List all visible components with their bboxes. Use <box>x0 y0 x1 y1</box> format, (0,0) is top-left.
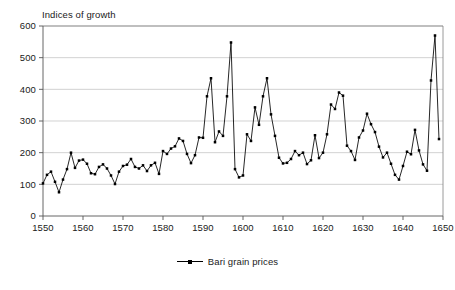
data-point <box>122 165 125 168</box>
data-point <box>430 79 433 82</box>
data-point <box>302 151 305 154</box>
x-tick-label-1600: 1600 <box>232 222 254 233</box>
data-point <box>322 151 325 154</box>
y-tick-label-0: 0 <box>31 210 36 221</box>
x-axis-ticks <box>43 216 443 220</box>
data-point <box>42 182 45 185</box>
data-point <box>414 129 417 132</box>
legend-marker-icon <box>188 260 192 264</box>
data-point <box>374 131 377 134</box>
data-point <box>342 94 345 97</box>
y-tick-label-200: 200 <box>20 147 36 158</box>
data-point <box>158 173 161 176</box>
data-point <box>338 91 341 94</box>
data-point <box>202 137 205 140</box>
data-point <box>190 162 193 165</box>
data-point <box>290 158 293 161</box>
y-axis-labels: 0100200300400500600 <box>20 20 36 221</box>
x-tick-label-1620: 1620 <box>312 222 334 233</box>
data-point <box>170 147 173 150</box>
data-point <box>230 41 233 44</box>
data-point <box>106 167 109 170</box>
data-point <box>282 162 285 165</box>
chart-plot-svg: 0100200300400500600 15501560157015801590… <box>0 0 455 290</box>
data-point <box>394 174 397 177</box>
x-tick-label-1580: 1580 <box>152 222 174 233</box>
data-point <box>410 153 413 156</box>
chart-legend: Bari grain prices <box>0 256 455 267</box>
data-point <box>226 95 229 98</box>
data-point <box>314 134 317 137</box>
data-point <box>402 165 405 168</box>
data-point <box>210 77 213 80</box>
data-point <box>162 150 165 153</box>
y-tick-label-500: 500 <box>20 52 36 63</box>
data-point <box>298 154 301 157</box>
data-point <box>354 159 357 162</box>
data-point <box>86 163 89 166</box>
data-point <box>54 181 57 184</box>
data-point <box>350 150 353 153</box>
data-point <box>154 162 157 165</box>
data-point <box>426 169 429 172</box>
data-point <box>102 163 105 166</box>
data-point <box>306 163 309 166</box>
data-point <box>406 150 409 153</box>
data-point <box>178 137 181 140</box>
data-point <box>294 150 297 153</box>
data-point <box>278 156 281 159</box>
x-tick-label-1610: 1610 <box>272 222 294 233</box>
data-point <box>242 174 245 177</box>
data-point <box>378 145 381 148</box>
data-point <box>218 130 221 133</box>
data-point <box>238 176 241 179</box>
chart-container: Indices of growth 0100200300400500600 15… <box>0 0 455 290</box>
y-tick-label-400: 400 <box>20 84 36 95</box>
data-point <box>246 133 249 136</box>
data-point <box>386 151 389 154</box>
x-tick-label-1630: 1630 <box>352 222 374 233</box>
data-point <box>146 170 149 173</box>
data-point <box>434 34 437 37</box>
data-point <box>142 164 145 167</box>
data-point <box>78 159 81 162</box>
data-point <box>214 141 217 144</box>
gridlines-group <box>43 26 443 184</box>
data-point <box>318 157 321 160</box>
x-tick-label-1570: 1570 <box>112 222 134 233</box>
data-point <box>330 103 333 106</box>
data-point <box>222 135 225 138</box>
x-tick-label-1550: 1550 <box>32 222 54 233</box>
data-point <box>114 183 117 186</box>
data-point <box>334 108 337 111</box>
data-point <box>234 168 237 171</box>
data-point <box>198 136 201 139</box>
data-point <box>82 158 85 161</box>
data-point <box>66 168 69 171</box>
data-point <box>366 112 369 115</box>
data-point <box>326 133 329 136</box>
data-point <box>50 170 53 173</box>
data-point <box>98 166 101 169</box>
data-point <box>398 178 401 181</box>
line-marker-swatch <box>177 257 203 266</box>
x-tick-label-1590: 1590 <box>192 222 214 233</box>
data-point <box>174 145 177 148</box>
data-point <box>70 151 73 154</box>
data-point <box>262 95 265 98</box>
y-tick-label-300: 300 <box>20 115 36 126</box>
data-point <box>130 158 133 161</box>
data-series-group <box>42 34 441 193</box>
data-point <box>46 174 49 177</box>
data-point <box>90 172 93 175</box>
legend-label-bari-grain-prices: Bari grain prices <box>208 256 278 267</box>
y-tick-label-600: 600 <box>20 20 36 31</box>
data-point <box>422 163 425 166</box>
data-point <box>362 129 365 132</box>
data-point <box>74 167 77 170</box>
data-point <box>182 140 185 143</box>
data-point <box>118 170 121 173</box>
data-point <box>266 77 269 80</box>
x-axis-labels: 1550156015701580159016001610162016301640… <box>32 222 454 233</box>
series-line-0 <box>43 36 439 193</box>
